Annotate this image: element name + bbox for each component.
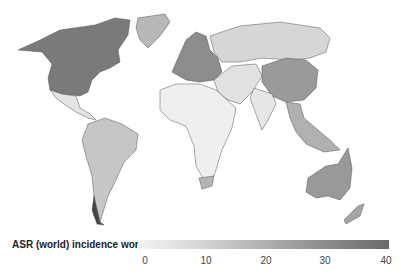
legend-tick-40: 40 bbox=[380, 255, 391, 266]
region-australia[interactable] bbox=[306, 148, 352, 200]
region-greenland[interactable] bbox=[136, 14, 170, 48]
legend-title: ASR (world) incidence women bbox=[12, 239, 155, 250]
region-russia[interactable] bbox=[210, 22, 330, 62]
region-africa[interactable] bbox=[160, 84, 236, 180]
legend-tick-10: 10 bbox=[200, 255, 211, 266]
region-north-america[interactable] bbox=[18, 18, 130, 96]
region-southeast-asia[interactable] bbox=[286, 102, 340, 152]
legend-tick-0: 0 bbox=[142, 255, 148, 266]
region-south-america[interactable] bbox=[82, 118, 138, 222]
region-india[interactable] bbox=[250, 88, 276, 130]
legend-tick-30: 30 bbox=[319, 255, 330, 266]
world-map bbox=[0, 0, 403, 235]
legend-tick-20: 20 bbox=[260, 255, 271, 266]
region-south-africa[interactable] bbox=[199, 176, 214, 189]
region-new-zealand[interactable] bbox=[344, 204, 364, 224]
legend-color-scale bbox=[138, 240, 389, 249]
